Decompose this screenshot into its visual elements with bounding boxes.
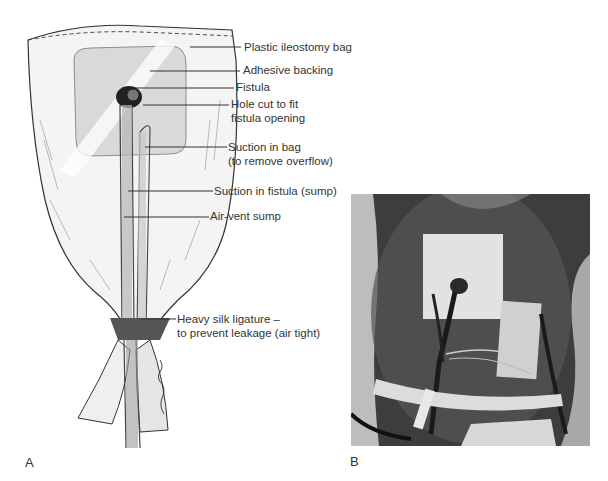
label-hole-cut-line1: Hole cut to fit: [231, 97, 298, 111]
label-suction-in-bag-line2: (to remove overflow): [228, 154, 333, 168]
panel-a: Plastic ileostomy bag Adhesive backing F…: [0, 0, 340, 481]
label-fistula: Fistula: [236, 80, 270, 94]
label-adhesive-backing: Adhesive backing: [243, 63, 333, 77]
label-hole-cut-line2: fistula opening: [231, 111, 305, 125]
label-suction-in-fistula: Suction in fistula (sump): [214, 184, 337, 198]
label-air-vent-sump: Air-vent sump: [210, 209, 281, 223]
panel-a-letter: A: [25, 455, 34, 470]
panel-b-letter: B: [350, 454, 359, 469]
label-heavy-silk-ligature-line2: to prevent leakage (air tight): [177, 326, 320, 340]
label-suction-in-bag-line1: Suction in bag: [228, 140, 301, 154]
label-heavy-silk-ligature-line1: Heavy silk ligature –: [177, 312, 280, 326]
panel-b-photo: [351, 194, 590, 446]
label-plastic-ileostomy-bag: Plastic ileostomy bag: [244, 40, 352, 54]
